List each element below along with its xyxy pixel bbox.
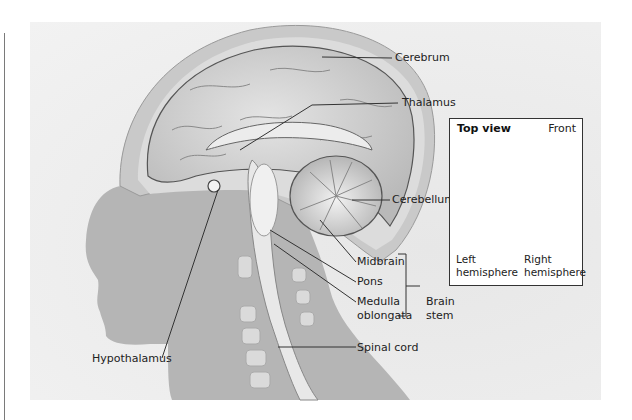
- right-hemisphere-line2: hemisphere: [524, 266, 586, 279]
- label-cerebellum: Cerebellum: [392, 193, 455, 206]
- cerebellum-illustration: [290, 156, 382, 236]
- label-spinal-cord: Spinal cord: [357, 341, 418, 354]
- label-cerebrum: Cerebrum: [395, 51, 450, 64]
- inset-right-hemisphere-label: Right hemisphere: [524, 253, 586, 279]
- top-view-inset: Top view Front Left hemisphere Right hem…: [449, 118, 583, 286]
- inset-left-hemisphere-label: Left hemisphere: [456, 253, 518, 279]
- label-brain-stem-line2: stem: [426, 309, 454, 322]
- inset-title: Top view: [457, 122, 511, 135]
- inset-front-label: Front: [548, 122, 576, 135]
- label-hypothalamus: Hypothalamus: [92, 352, 172, 365]
- label-thalamus: Thalamus: [402, 96, 456, 109]
- left-hemisphere-line2: hemisphere: [456, 266, 518, 279]
- right-hemisphere-line1: Right: [524, 253, 586, 266]
- label-brain-stem-line1: Brain: [426, 295, 455, 308]
- label-pons: Pons: [357, 275, 383, 288]
- label-medulla-line1: Medulla: [357, 295, 400, 308]
- left-hemisphere-line1: Left: [456, 253, 518, 266]
- label-medulla-line2: oblongata: [357, 309, 412, 322]
- label-midbrain: Midbrain: [357, 255, 405, 268]
